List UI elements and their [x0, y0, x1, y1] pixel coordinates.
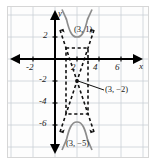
hyperbola-upper-tail-left [62, 10, 67, 20]
center-label-leader-line [78, 81, 104, 90]
y-tick-label--4: -4 [39, 96, 47, 106]
vertex-lower-point-label: (3, −5) [66, 138, 89, 148]
x-tick-label-2: 2 [71, 62, 76, 72]
y-tick-label--6: -6 [39, 118, 47, 128]
x-tick-label-6: 6 [115, 62, 120, 72]
vertex-upper-point-label: (3, 1) [74, 24, 92, 34]
y-tick-label--2: -2 [39, 74, 47, 84]
x-axis-name-label: x [139, 61, 143, 71]
center-point-label: (3, −2) [105, 84, 128, 94]
x-tick-label--2: -2 [26, 62, 34, 72]
x-tick-label-4: 4 [93, 62, 98, 72]
y-tick-label-2: 2 [43, 30, 48, 40]
hyperbola-upper-tail-right [88, 10, 93, 20]
graph-figure: -2 2 4 6 2 -2 -4 -6 x y (3, 1) (3, −2) (… [0, 0, 157, 165]
y-axis-name-label: y [58, 8, 62, 18]
